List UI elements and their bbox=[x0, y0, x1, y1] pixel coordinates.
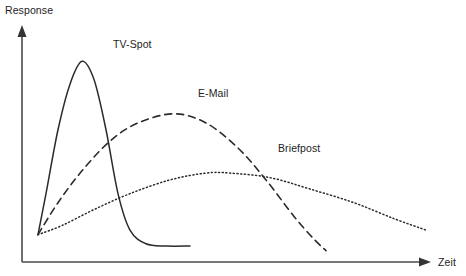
series-curve-e-mail bbox=[38, 114, 326, 251]
y-axis-arrowhead bbox=[18, 25, 27, 37]
response-over-time-chart: Response Zeit TV-Spot E-Mail Briefpost bbox=[0, 0, 466, 276]
series-label-tv-spot: TV-Spot bbox=[113, 38, 152, 50]
x-axis-title: Zeit bbox=[438, 256, 456, 268]
chart-canvas: Response Zeit TV-Spot E-Mail Briefpost bbox=[0, 0, 466, 276]
series-curve-briefpost bbox=[38, 172, 426, 234]
y-axis-title: Response bbox=[5, 4, 53, 16]
x-axis-arrowhead bbox=[419, 258, 431, 267]
series-curve-tv-spot bbox=[38, 61, 190, 246]
series-label-briefpost: Briefpost bbox=[278, 142, 320, 154]
series-label-e-mail: E-Mail bbox=[198, 87, 228, 99]
